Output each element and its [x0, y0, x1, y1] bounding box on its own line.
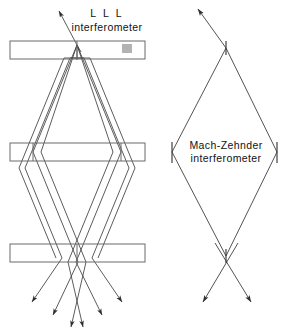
- figure-canvas: L L L interferometer: [0, 0, 281, 336]
- lll-exit-6: [92, 258, 122, 302]
- lll-title-line1: L L L: [90, 7, 124, 19]
- mz-arm-lower-left: [172, 152, 226, 256]
- mz-title-line1: Mach-Zehnder: [189, 139, 262, 151]
- lll-ray-r1: [77, 45, 121, 152]
- mach-zehnder-panel: Mach-Zehnder interferometer: [172, 9, 277, 302]
- lll-ray-r3: [84, 58, 129, 168]
- lll-ray-m6: [68, 152, 113, 262]
- interferometer-diagram: L L L interferometer: [0, 0, 281, 336]
- mz-arm-lower-right: [226, 152, 277, 256]
- lll-exit-1: [32, 258, 62, 302]
- lll-title-line2: interferometer: [72, 21, 143, 33]
- lll-ray-m1: [33, 152, 78, 262]
- mz-arm-upper-left: [172, 48, 226, 152]
- lll-panel: L L L interferometer: [10, 7, 145, 327]
- lll-ray-l1: [33, 45, 77, 152]
- lll-ray-l3: [25, 58, 70, 168]
- lll-ray-m2: [41, 152, 86, 262]
- lll-ray-m5: [76, 152, 121, 262]
- mz-arm-upper-right: [226, 48, 277, 152]
- mz-input-beam: [198, 9, 226, 48]
- lll-ray-l2: [41, 45, 77, 152]
- mz-title-line2: interferometer: [191, 152, 262, 164]
- lll-ray-r2: [77, 45, 113, 152]
- lll-crystal-slabs: [10, 41, 145, 262]
